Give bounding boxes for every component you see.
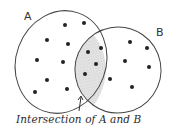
element-dot <box>82 21 86 25</box>
caption: Intersection of A and B <box>16 113 146 125</box>
element-dot <box>63 23 67 27</box>
element-dot <box>94 62 98 66</box>
element-dot <box>83 72 87 76</box>
element-dot <box>145 46 149 50</box>
element-dot <box>33 90 37 94</box>
set-a-label: A <box>24 10 32 23</box>
venn-diagram: A B Intersection of A and B <box>0 0 174 130</box>
element-dot <box>45 78 49 82</box>
element-dot <box>65 87 69 91</box>
element-dot <box>61 60 65 64</box>
arrow-icon <box>78 96 83 111</box>
element-dot <box>128 40 132 44</box>
element-dot <box>99 46 103 50</box>
element-dot <box>130 85 134 89</box>
element-dot <box>66 42 70 46</box>
element-dot <box>86 50 90 54</box>
element-dot <box>45 38 49 42</box>
element-dot <box>123 59 127 63</box>
element-dot <box>147 65 151 69</box>
element-dot <box>35 58 39 62</box>
set-b-label: B <box>156 26 164 39</box>
element-dot <box>108 77 112 81</box>
